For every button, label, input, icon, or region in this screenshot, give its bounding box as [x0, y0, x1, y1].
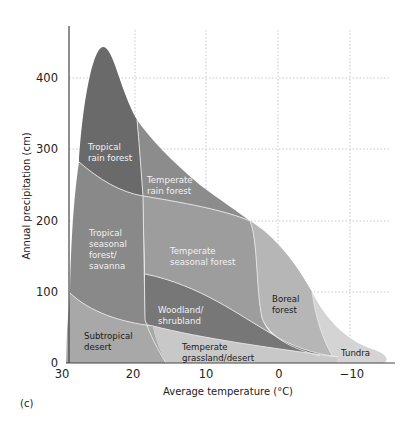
x-tick-20: 20 — [126, 367, 141, 381]
x-tick-30: 30 — [55, 367, 70, 381]
label-temperate-rain-forest: Temperate rain forest — [146, 175, 195, 196]
label-woodland-shrubland: Woodland/ shrubland — [158, 305, 206, 326]
label-tundra: Tundra — [340, 348, 370, 358]
y-tick-100: 100 — [36, 285, 58, 299]
y-axis-ticks: 0 100 200 300 400 — [36, 71, 58, 370]
x-tick-10: 10 — [199, 367, 214, 381]
y-tick-300: 300 — [36, 142, 58, 156]
panel-label: (c) — [20, 398, 33, 409]
y-tick-400: 400 — [36, 71, 58, 85]
x-axis-ticks: 30 20 10 0 −10 — [55, 367, 364, 381]
biome-regions — [66, 47, 387, 363]
biome-climate-diagram: 0 100 200 300 400 30 20 10 0 −10 Average… — [0, 0, 416, 425]
x-tick-0: 0 — [275, 367, 282, 381]
y-axis-label: Annual precipitation (cm) — [21, 132, 32, 259]
y-tick-200: 200 — [36, 214, 58, 228]
x-axis-label: Average temperature (°C) — [163, 386, 293, 397]
x-tick-minus10: −10 — [340, 367, 364, 381]
